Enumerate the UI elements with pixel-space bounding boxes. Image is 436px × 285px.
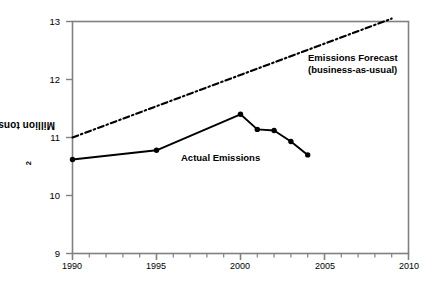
data-point-marker (238, 112, 243, 117)
plot-area (0, 0, 436, 285)
plot-frame (73, 22, 409, 254)
actual-series-line (73, 114, 308, 159)
data-point-marker (305, 152, 310, 157)
data-point-marker (271, 128, 276, 133)
data-point-marker (154, 148, 159, 153)
data-point-marker (255, 127, 260, 132)
forecast-series-line (73, 19, 392, 138)
data-point-marker (288, 139, 293, 144)
emissions-chart: Million tons eCO2 13 12 11 10 9 1990 199… (0, 0, 436, 285)
actual-series-markers (70, 112, 311, 163)
data-point-marker (70, 157, 75, 162)
